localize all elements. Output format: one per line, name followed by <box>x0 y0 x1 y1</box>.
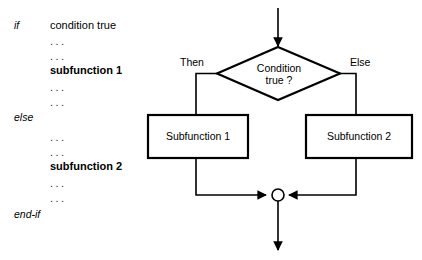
else-branch-line <box>340 74 356 116</box>
diagram-canvas: if condition true ... ... subfunction 1 … <box>0 0 422 260</box>
process-box-1-label: Subfunction 1 <box>148 130 248 142</box>
decision-label-line-2: true ? <box>232 74 326 86</box>
merge-line-right <box>289 158 356 195</box>
then-branch-line <box>196 74 217 116</box>
edge-label-then: Then <box>180 56 214 68</box>
edge-label-else: Else <box>350 56 384 68</box>
decision-label-line-1: Condition <box>232 62 326 74</box>
merge-circle <box>272 189 284 201</box>
process-box-2-label: Subfunction 2 <box>306 130 412 142</box>
decision-node-label: Condition true ? <box>232 62 326 86</box>
merge-line-left <box>196 158 266 195</box>
